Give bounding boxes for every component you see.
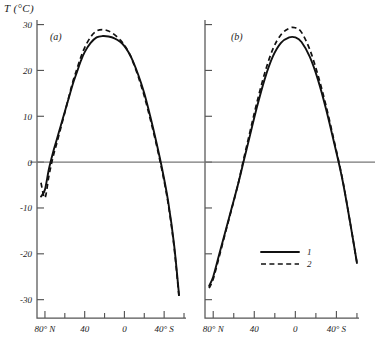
x-tick-label: 40: [250, 324, 260, 334]
legend-label-2: 2: [307, 259, 312, 269]
panel-a-y-tick-labels: 3020100-10-20-30: [20, 20, 33, 305]
panel-a-series-1: [41, 36, 179, 295]
panel-b-plot: 80° N40040° S (b) 1 2: [189, 0, 378, 342]
panel-a-axes: [30, 20, 189, 318]
x-tick-label: 0: [293, 324, 298, 334]
y-tick-label: 30: [22, 20, 33, 30]
x-tick-label: 40: [80, 324, 90, 334]
panel-a-series-2: [41, 30, 179, 298]
x-tick-label: 80° N: [203, 324, 225, 334]
panel-b: 80° N40040° S (b) 1 2: [189, 0, 378, 342]
panel-a-plot: 3020100-10-20-30 80° N40040° S (a): [0, 0, 189, 342]
panel-a-x-ticks: [45, 311, 184, 318]
x-tick-label: 40° S: [327, 324, 347, 334]
y-tick-label: -10: [20, 203, 32, 213]
legend: 1 2: [261, 247, 312, 269]
x-tick-label: 40° S: [154, 324, 174, 334]
panel-b-series-2: [209, 27, 357, 288]
panel-b-x-ticks: [213, 311, 357, 318]
figure-container: T (°C) 3020100-10-20-30 80° N40040° S (a…: [0, 0, 378, 342]
y-tick-label: 10: [23, 112, 33, 122]
panel-a-x-tick-labels: 80° N40040° S: [35, 324, 175, 334]
panel-a: 3020100-10-20-30 80° N40040° S (a): [0, 0, 189, 342]
y-tick-label: 20: [23, 66, 33, 76]
panel-b-axes: [189, 20, 375, 318]
y-tick-label: -20: [20, 249, 32, 259]
y-tick-label: -30: [20, 295, 32, 305]
panel-b-x-tick-labels: 80° N40040° S: [203, 324, 347, 334]
panel-a-label: (a): [50, 31, 62, 43]
y-tick-label: 0: [28, 158, 33, 168]
panel-b-label: (b): [231, 31, 243, 43]
x-tick-label: 80° N: [35, 324, 57, 334]
legend-label-1: 1: [307, 247, 312, 257]
panel-b-series-1: [209, 37, 357, 286]
x-tick-label: 0: [122, 324, 127, 334]
